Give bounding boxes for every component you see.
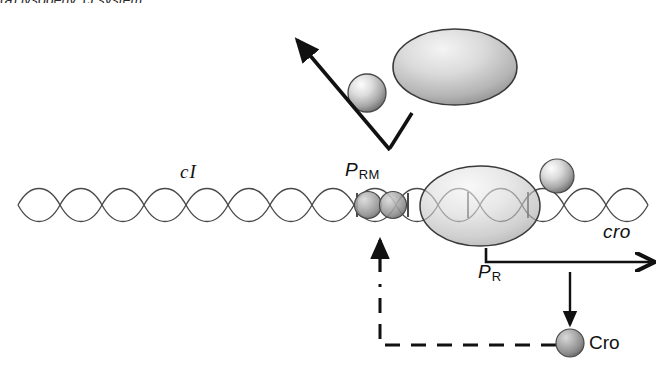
figure-canvas: (a) lysogeny, cI system bbox=[0, 0, 669, 378]
gene-label-cro: cro bbox=[603, 222, 631, 241]
cro-protein-sphere bbox=[556, 329, 584, 357]
promoter-pr-base: P bbox=[478, 261, 491, 282]
promoter-label-prm: PRM bbox=[345, 160, 379, 179]
promoter-label-pr: PR bbox=[478, 262, 500, 281]
ci-dimer-subunit-right bbox=[380, 192, 407, 219]
protein-label-cro: Cro bbox=[589, 333, 620, 352]
gene-label-ci: cI bbox=[180, 162, 197, 181]
dna-double-helix bbox=[18, 189, 648, 222]
pr-transcription-arrow bbox=[486, 248, 652, 262]
ci-dimer-subunit-left bbox=[355, 192, 382, 219]
diagram-vector-layer bbox=[0, 0, 669, 378]
polymerase-subunit-sphere bbox=[540, 159, 574, 193]
promoter-pr-subscript: R bbox=[492, 269, 502, 284]
promoter-prm-base: P bbox=[345, 159, 358, 180]
free-ci-dimer-large bbox=[393, 29, 517, 105]
ci-repressor-dimer bbox=[355, 192, 407, 219]
rna-polymerase-ellipse bbox=[420, 166, 540, 246]
cro-feedback-dashed-line bbox=[380, 284, 556, 345]
promoter-prm-subscript: RM bbox=[359, 167, 380, 182]
